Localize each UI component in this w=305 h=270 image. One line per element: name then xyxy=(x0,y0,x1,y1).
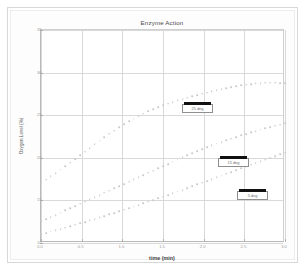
data-point xyxy=(216,143,218,145)
data-point xyxy=(255,82,257,84)
data-point xyxy=(191,185,193,187)
data-point xyxy=(206,92,208,94)
gridline-vertical xyxy=(244,30,245,241)
data-point xyxy=(143,174,145,176)
data-series xyxy=(41,30,283,241)
data-point xyxy=(69,207,71,209)
data-point xyxy=(50,176,52,178)
data-point xyxy=(279,124,281,126)
data-point xyxy=(69,225,71,227)
x-tick-mark xyxy=(163,239,164,242)
data-point xyxy=(221,175,223,177)
legend-label: 5 deg xyxy=(238,193,267,198)
gridline-vertical xyxy=(122,30,123,241)
x-tick-label: 2.0 xyxy=(200,244,206,249)
gridline-vertical xyxy=(41,30,42,241)
data-point xyxy=(172,101,174,103)
data-point xyxy=(65,210,67,212)
data-point xyxy=(255,162,257,164)
data-point xyxy=(216,176,218,178)
data-point xyxy=(152,170,154,172)
data-point xyxy=(79,222,81,224)
data-point xyxy=(216,89,218,91)
y-tick-label: 35 xyxy=(37,27,42,32)
data-point xyxy=(94,196,96,198)
data-point xyxy=(143,202,145,204)
gridline-vertical xyxy=(163,30,164,241)
x-tick-mark xyxy=(122,239,123,242)
data-point xyxy=(201,182,203,184)
data-point xyxy=(94,143,96,145)
data-point xyxy=(265,127,267,129)
data-point xyxy=(196,94,198,96)
data-point xyxy=(230,86,232,88)
data-point xyxy=(245,133,247,135)
data-point xyxy=(148,111,150,113)
x-tick-label: 0.0 xyxy=(37,244,43,249)
data-point xyxy=(250,83,252,85)
x-tick-label: 1.0 xyxy=(118,244,124,249)
legend-callout-25-deg[interactable]: 25 deg xyxy=(182,104,213,113)
data-point xyxy=(177,159,179,161)
data-point xyxy=(65,227,67,229)
data-point xyxy=(182,98,184,100)
data-point xyxy=(113,187,115,189)
data-point xyxy=(221,141,223,143)
data-point xyxy=(104,192,106,194)
data-point xyxy=(274,125,276,127)
data-point xyxy=(201,148,203,150)
legend-pointer-bar xyxy=(239,189,266,192)
data-point xyxy=(50,216,52,218)
legend-label: 15 deg xyxy=(219,160,248,165)
data-point xyxy=(108,214,110,216)
y-tick-label: 30 xyxy=(37,69,42,74)
data-point xyxy=(226,87,228,89)
data-point xyxy=(89,220,91,222)
data-point xyxy=(65,165,67,167)
data-point xyxy=(104,136,106,138)
data-point xyxy=(138,204,140,206)
legend-callout-5-deg[interactable]: 5 deg xyxy=(237,191,268,200)
data-point xyxy=(99,217,101,219)
y-axis-label: Oxygen Level (%) xyxy=(19,118,24,155)
data-point xyxy=(74,205,76,207)
legend-pointer-bar xyxy=(184,102,211,105)
data-point xyxy=(279,82,281,84)
data-point xyxy=(152,108,154,110)
data-point xyxy=(274,155,276,157)
data-point xyxy=(74,224,76,226)
data-point xyxy=(157,198,159,200)
x-tick-label: 3.0 xyxy=(281,244,287,249)
legend-callout-15-deg[interactable]: 15 deg xyxy=(218,158,249,167)
data-series xyxy=(41,30,283,241)
data-point xyxy=(113,212,115,214)
data-point xyxy=(133,206,135,208)
data-point xyxy=(187,154,189,156)
gridline-horizontal xyxy=(41,200,283,201)
x-tick-mark xyxy=(244,239,245,242)
data-point xyxy=(230,138,232,140)
data-point xyxy=(245,84,247,86)
data-point xyxy=(235,85,237,87)
data-point xyxy=(84,151,86,153)
data-point xyxy=(50,231,52,233)
data-point xyxy=(211,145,213,147)
data-point xyxy=(221,88,223,90)
data-point xyxy=(157,168,159,170)
data-point xyxy=(60,212,62,214)
data-point xyxy=(206,146,208,148)
x-tick-mark xyxy=(204,239,205,242)
data-point xyxy=(99,140,101,142)
data-point xyxy=(138,176,140,178)
x-tick-mark xyxy=(82,239,83,242)
data-point xyxy=(167,103,169,105)
data-point xyxy=(187,97,189,99)
data-point xyxy=(196,150,198,152)
figure-canvas: Enzyme Action Oxygen Level (%) time (min… xyxy=(10,10,295,260)
data-point xyxy=(108,190,110,192)
data-point xyxy=(226,173,228,175)
legend-pointer-bar xyxy=(220,156,247,159)
data-point xyxy=(94,218,96,220)
y-tick-label: 25 xyxy=(37,112,42,117)
data-point xyxy=(265,82,267,84)
